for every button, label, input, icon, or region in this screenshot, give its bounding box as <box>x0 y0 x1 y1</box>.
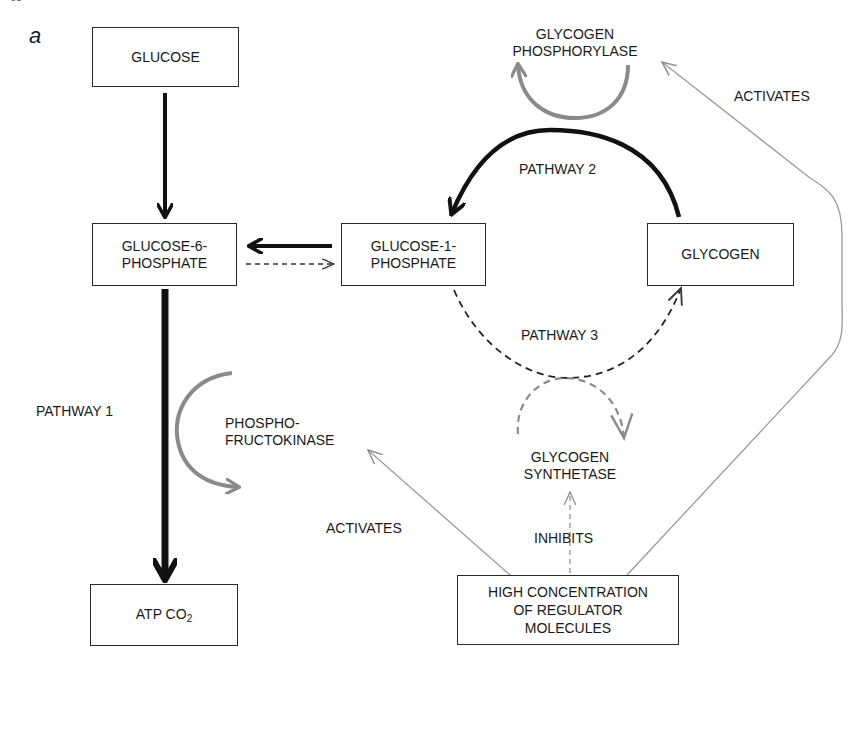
node-regulator-line1: HIGH CONCENTRATION <box>488 583 648 601</box>
label-activates-right: ACTIVATES <box>734 88 810 105</box>
node-glucose: GLUCOSE <box>92 27 239 87</box>
node-g1p-line2: PHOSPHATE <box>371 255 457 272</box>
arrow-regulator-activates-phosphorylase <box>627 62 842 575</box>
arrow-synthetase-cycle <box>518 378 624 438</box>
node-glucose-label: GLUCOSE <box>131 49 199 66</box>
node-atp-co2-label: ATP CO2 <box>136 606 192 624</box>
node-g1p-line1: GLUCOSE-1- <box>371 238 457 255</box>
enzyme-glycogen-synthetase: GLYCOGEN SYNTHETASE <box>510 449 630 483</box>
enzyme-glycogen-phosphorylase: GLYCOGEN PHOSPHORYLASE <box>505 26 645 60</box>
node-g6p-line1: GLUCOSE-6- <box>122 238 208 255</box>
node-glucose-6-phosphate: GLUCOSE-6- PHOSPHATE <box>92 223 237 286</box>
label-pathway-2: PATHWAY 2 <box>519 161 596 178</box>
label-inhibits: INHIBITS <box>534 530 593 547</box>
arrow-regulator-activates-pfk <box>368 450 510 575</box>
node-glycogen-label: GLYCOGEN <box>681 246 759 263</box>
label-pathway-3: PATHWAY 3 <box>521 327 598 344</box>
enzyme-phosphofructokinase: PHOSPHO- FRUCTOKINASE <box>225 415 334 449</box>
node-regulator-line3: MOLECULES <box>488 619 648 637</box>
node-glucose-1-phosphate: GLUCOSE-1- PHOSPHATE <box>341 223 486 286</box>
label-activates-left: ACTIVATES <box>326 520 402 537</box>
node-g6p-line2: PHOSPHATE <box>122 255 208 272</box>
label-pathway-1: PATHWAY 1 <box>36 403 113 420</box>
node-atp-co2: ATP CO2 <box>90 584 238 646</box>
node-regulator-line2: OF REGULATOR <box>488 601 648 619</box>
arrow-phosphorylase-cycle <box>518 65 628 118</box>
glycogen-metabolism-diagram: 68 a <box>0 0 854 738</box>
node-glycogen: GLYCOGEN <box>647 223 794 286</box>
node-regulator-molecules: HIGH CONCENTRATION OF REGULATOR MOLECULE… <box>457 575 679 645</box>
